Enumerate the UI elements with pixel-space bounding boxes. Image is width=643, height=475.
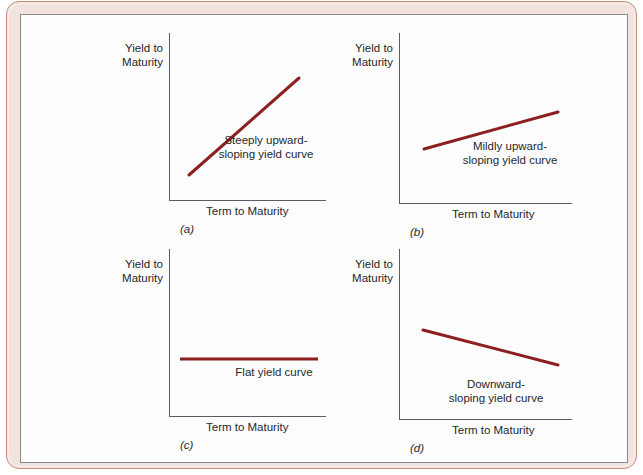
curve-annotation: Mildly upward- sloping yield curve: [446, 139, 574, 167]
yield-curve-line: [336, 243, 571, 455]
panel-downward: Yield to Maturity Term to Maturity Downw…: [336, 243, 571, 455]
panel-letter: (d): [410, 442, 424, 454]
yield-curve-line: [106, 27, 326, 237]
curve-annotation: Steeply upward- sloping yield curve: [206, 133, 326, 161]
figure-root: Yield to Maturity Term to Maturity Steep…: [0, 0, 643, 475]
panel-letter: (a): [180, 223, 194, 235]
panel-letter: (b): [410, 226, 424, 238]
yield-curve-line: [336, 27, 571, 237]
curve-annotation: Flat yield curve: [214, 365, 334, 379]
curve-annotation: Downward- sloping yield curve: [432, 377, 560, 405]
panel-steeply-upward: Yield to Maturity Term to Maturity Steep…: [106, 27, 326, 237]
yield-curve-line: [106, 243, 326, 455]
panel-mildly-upward: Yield to Maturity Term to Maturity Mildl…: [336, 27, 571, 237]
panel-letter: (c): [180, 439, 193, 451]
figure-artboard: Yield to Maturity Term to Maturity Steep…: [20, 14, 628, 463]
panel-flat: Yield to Maturity Term to Maturity Flat …: [106, 243, 326, 455]
